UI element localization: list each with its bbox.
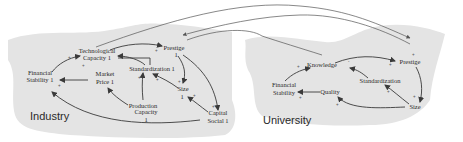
node-line: Financial (272, 81, 296, 88)
polarity-sign: + (178, 79, 181, 84)
node-line: Market (96, 70, 115, 77)
university-node-prestige: Prestige (400, 58, 421, 65)
node-line: Prestige (164, 44, 185, 51)
node-line: Price 1 (96, 78, 114, 85)
polarity-sign: + (156, 77, 159, 82)
node-line: Standardization 1 (129, 65, 175, 72)
polarity-sign: + (412, 52, 415, 57)
node-line: Stability 1 (27, 76, 54, 83)
node-line: Capacity (134, 108, 158, 115)
university-node-size: Size (409, 103, 420, 110)
node-line: Financial (28, 69, 52, 76)
polarity-sign: + (212, 104, 215, 109)
industry-node-standard: Standardization 1 (129, 65, 175, 72)
university-region (245, 25, 445, 126)
polarity-sign: + (193, 93, 196, 98)
node-line: Capacity 1 (83, 54, 111, 61)
polarity-sign: + (297, 64, 300, 69)
polarity-sign: + (413, 94, 416, 99)
polarity-sign: + (138, 75, 141, 80)
node-line: Social 1 (207, 117, 228, 124)
causal-loop-diagram: Technological Capacity 1 Prestige 1 Fina… (0, 0, 463, 142)
node-line: 1 (144, 116, 147, 123)
node-line: Size (177, 85, 188, 92)
university-label: University (263, 114, 312, 126)
university-node-quality: Quality (320, 88, 340, 95)
polarity-sign: + (82, 63, 85, 68)
polarity-sign: + (389, 62, 392, 67)
polarity-sign: + (387, 89, 390, 94)
node-line: Technological (79, 47, 116, 54)
polarity-sign: + (68, 55, 71, 60)
university-node-knowledge: Knowledge (307, 61, 337, 68)
polarity-sign: + (58, 83, 61, 88)
polarity-sign: + (299, 95, 302, 100)
industry-node-tech: Technological Capacity 1 (79, 47, 116, 61)
industry-node-market: Market Price 1 (96, 70, 115, 85)
polarity-sign: + (155, 48, 158, 53)
node-line: 1 (174, 51, 177, 58)
university-node-standard: Standardization (360, 77, 402, 84)
node-line: Capital (209, 109, 228, 116)
industry-label: Industry (30, 110, 70, 122)
node-line: Stability (273, 89, 296, 96)
industry-node-capital: Capital Social 1 (207, 109, 228, 124)
university-node-financial: Financial Stability (272, 81, 296, 96)
industry-node-financial: Financial Stability 1 (27, 69, 54, 83)
node-line: 1 (180, 93, 183, 100)
polarity-sign: + (336, 102, 339, 107)
